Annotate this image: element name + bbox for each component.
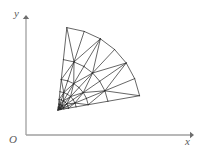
mesh-edge <box>61 79 64 92</box>
origin-label: O <box>9 134 17 145</box>
figure-root: y O x <box>0 0 204 156</box>
x-axis-arrow-icon <box>190 132 194 138</box>
x-axis-label: x <box>185 136 190 147</box>
mesh-edge <box>115 50 127 63</box>
mesh-edge <box>105 91 140 96</box>
mesh-edge <box>84 66 93 73</box>
mesh-edge <box>108 96 140 102</box>
mesh-edge <box>60 79 61 91</box>
mesh-edge <box>68 81 74 84</box>
mesh-edge <box>75 103 76 107</box>
mesh-edge <box>79 73 93 88</box>
mesh-edge <box>67 28 84 32</box>
mesh-edge <box>126 63 134 79</box>
mesh-edge <box>93 39 101 73</box>
mesh-edge <box>68 62 74 81</box>
mesh-edge <box>100 63 127 81</box>
mesh-edge <box>83 93 86 99</box>
mesh-edge <box>63 60 74 62</box>
mesh-edge <box>79 88 83 93</box>
mesh-edge <box>74 84 79 88</box>
mesh-edge <box>100 39 114 50</box>
mesh-edge <box>84 39 100 67</box>
mesh-figure-svg <box>0 0 204 156</box>
mesh-edge <box>67 28 74 62</box>
mesh-edge <box>64 93 68 95</box>
mesh-edge <box>74 62 84 67</box>
mesh-edge <box>84 31 100 38</box>
mesh-edge <box>73 100 75 103</box>
axes-group <box>23 15 194 138</box>
mesh-edge <box>135 79 140 96</box>
mesh-edge <box>60 92 64 93</box>
mesh-edge <box>75 103 88 105</box>
mesh-edge <box>105 91 108 101</box>
mesh-edge <box>88 91 105 105</box>
y-axis-arrow-icon <box>23 15 29 19</box>
mesh-edge <box>67 94 70 96</box>
mesh-edge <box>61 79 67 80</box>
mesh-group <box>58 28 140 110</box>
mesh-edge <box>100 81 105 91</box>
mesh-edge <box>93 73 100 81</box>
mesh-edge <box>59 99 60 104</box>
mesh-edge <box>86 98 88 104</box>
mesh-edge <box>76 105 88 107</box>
mesh-edge <box>63 28 66 60</box>
y-axis-label: y <box>14 8 19 19</box>
mesh-edge <box>71 97 74 100</box>
